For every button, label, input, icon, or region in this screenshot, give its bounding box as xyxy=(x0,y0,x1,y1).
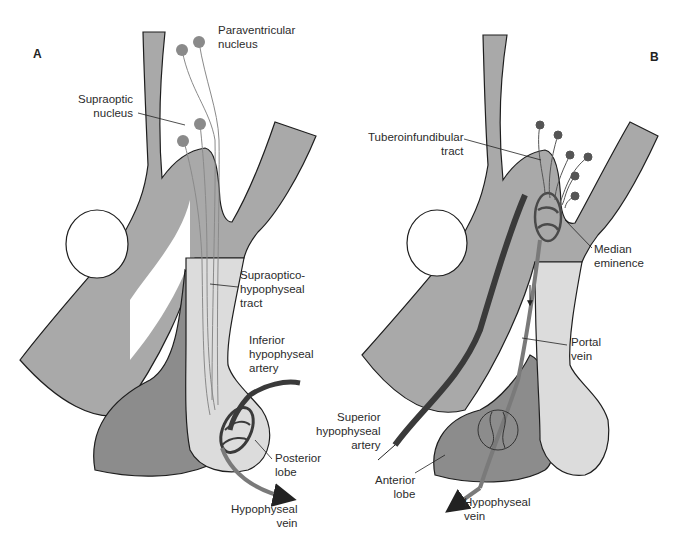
panel-b xyxy=(362,35,658,510)
label-tuberoinfundibular-tract: Tuberoinfundibular tract xyxy=(368,130,463,158)
label-median-eminence: Median eminence xyxy=(594,242,644,270)
panel-letter-a: A xyxy=(33,47,42,61)
optic-chiasm-b xyxy=(407,210,467,276)
pituitary-diagram: A B Paraventricular nucleus Supraoptic n… xyxy=(0,0,676,542)
label-hypophyseal-vein-a: Hypophyseal vein xyxy=(231,502,297,530)
label-supraoptico-hypophyseal-tract: Supraoptico- hypophyseal tract xyxy=(240,268,305,310)
hypothalamus-tissue-b xyxy=(362,35,658,412)
label-portal-vein: Portal vein xyxy=(571,335,601,363)
label-superior-hypophyseal-artery: Superior hypophyseal artery xyxy=(316,410,381,452)
label-supraoptic-nucleus: Supraoptic nucleus xyxy=(78,92,133,120)
label-anterior-lobe: Anterior lobe xyxy=(375,473,415,501)
panel-a xyxy=(20,32,316,499)
posterior-lobe-b xyxy=(535,262,609,475)
optic-chiasm-a xyxy=(66,210,128,278)
label-paraventricular-nucleus: Paraventricular nucleus xyxy=(218,23,295,51)
panel-letter-b: B xyxy=(650,50,659,64)
label-inferior-hypophyseal-artery: Inferior hypophyseal artery xyxy=(249,333,314,375)
label-hypophyseal-vein-b: Hypophyseal vein xyxy=(464,495,530,523)
label-posterior-lobe: Posterior lobe xyxy=(275,451,321,479)
